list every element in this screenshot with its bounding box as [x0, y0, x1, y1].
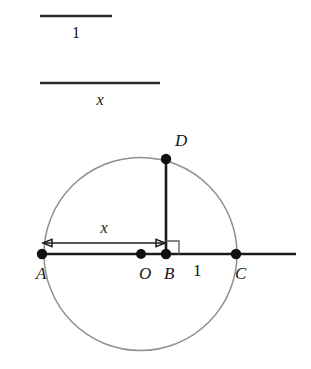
x-segment-label: x — [95, 91, 103, 108]
reference-segments-group: 1 x — [40, 16, 160, 108]
point-B-label: B — [164, 264, 175, 283]
dimension-x-group: x — [43, 219, 165, 247]
points-group: A O B C D — [35, 131, 247, 283]
point-O-dot — [136, 249, 146, 259]
geometry-figure: 1 x x A O B C D 1 — [0, 0, 311, 369]
point-A-label: A — [35, 264, 47, 283]
point-C-dot — [231, 249, 241, 259]
point-C-label: C — [235, 264, 247, 283]
point-D-dot — [161, 154, 171, 164]
unit-segment-label: 1 — [72, 24, 80, 41]
point-D-label: D — [174, 131, 188, 150]
point-A-dot — [37, 249, 47, 259]
unit-label-BC: 1 — [193, 261, 202, 280]
circle-diagram-group: x A O B C D 1 — [35, 131, 296, 351]
point-O-label: O — [139, 264, 151, 283]
point-B-dot — [161, 249, 171, 259]
dimension-x-label: x — [99, 219, 107, 236]
